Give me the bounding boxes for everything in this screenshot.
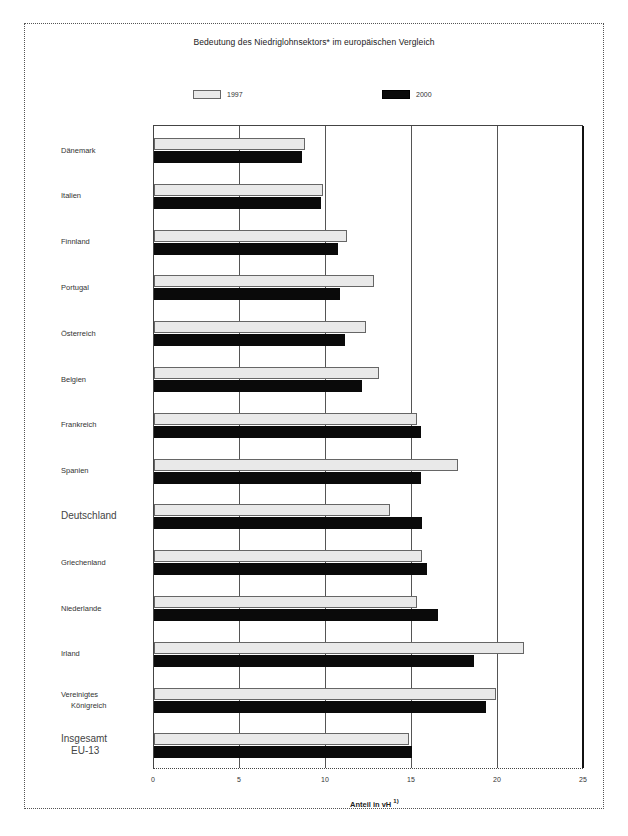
category-label-4: Österreich [61, 328, 96, 339]
category-label-5: Belgien [61, 374, 86, 385]
bar-2000-12 [154, 701, 486, 713]
bar-2000-10 [154, 609, 438, 621]
category-label-line: Portugal [61, 282, 89, 293]
x-tick-0: 0 [151, 776, 155, 783]
bar-2000-6 [154, 426, 421, 438]
gridline-25 [582, 126, 584, 768]
category-label-line: Österreich [61, 328, 96, 339]
bar-2000-8 [154, 517, 422, 529]
category-label-9: Griechenland [61, 557, 106, 568]
bar-2000-0 [154, 151, 302, 163]
x-tick-25: 25 [579, 776, 587, 783]
x-tick-10: 10 [321, 776, 329, 783]
bar-1997-6 [154, 413, 417, 425]
category-label-line: Deutschland [61, 510, 117, 522]
bar-2000-5 [154, 380, 362, 392]
bar-1997-10 [154, 596, 417, 608]
bar-2000-11 [154, 655, 474, 667]
bar-1997-0 [154, 138, 305, 150]
category-label-line: Dänemark [61, 145, 96, 156]
category-label-line: Griechenland [61, 557, 106, 568]
bar-1997-5 [154, 367, 379, 379]
bar-1997-4 [154, 321, 366, 333]
x-tick-20: 20 [493, 776, 501, 783]
bar-2000-4 [154, 334, 345, 346]
bar-2000-9 [154, 563, 427, 575]
bar-1997-7 [154, 459, 458, 471]
category-label-line: Italien [61, 190, 81, 201]
legend-item-1997: 1997 [193, 89, 243, 99]
bar-1997-9 [154, 550, 422, 562]
category-label-line: EU-13 [61, 745, 107, 757]
bar-1997-2 [154, 230, 347, 242]
legend-swatch-1997 [193, 90, 221, 99]
x-tick-15: 15 [407, 776, 415, 783]
gridline-10 [325, 126, 326, 768]
legend-swatch-2000 [382, 90, 410, 99]
legend-label-2000: 2000 [416, 91, 432, 98]
category-label-line: Insgesamt [61, 733, 107, 745]
category-label-1: Italien [61, 190, 81, 201]
category-label-line: Belgien [61, 374, 86, 385]
x-axis-footnote: 1) [393, 798, 398, 804]
category-label-11: Irland [61, 648, 80, 659]
legend-label-1997: 1997 [227, 91, 243, 98]
category-label-6: Frankreich [61, 419, 96, 430]
category-label-line: Irland [61, 648, 80, 659]
bar-1997-3 [154, 275, 374, 287]
chart-title: Bedeutung des Niedriglohnsektors* im eur… [0, 37, 628, 47]
gridline-20 [497, 126, 498, 768]
bar-2000-1 [154, 197, 321, 209]
category-label-8: Deutschland [61, 510, 117, 522]
category-label-10: Niederlande [61, 603, 101, 614]
category-label-2: Finnland [61, 236, 90, 247]
bar-2000-2 [154, 243, 338, 255]
category-label-3: Portugal [61, 282, 89, 293]
bar-1997-12 [154, 688, 496, 700]
plot-area [153, 125, 583, 769]
bar-1997-13 [154, 733, 409, 745]
category-label-line: Spanien [61, 465, 89, 476]
category-label-7: Spanien [61, 465, 89, 476]
category-label-line: Niederlande [61, 603, 101, 614]
bar-1997-1 [154, 184, 323, 196]
bar-2000-3 [154, 288, 340, 300]
gridline-15 [411, 126, 412, 768]
category-label-0: Dänemark [61, 145, 96, 156]
bar-2000-7 [154, 472, 421, 484]
category-label-13: InsgesamtEU-13 [61, 733, 107, 757]
bar-1997-8 [154, 504, 390, 516]
x-tick-5: 5 [237, 776, 241, 783]
bar-1997-11 [154, 642, 524, 654]
category-label-line: Königreich [61, 700, 106, 711]
category-label-line: Finnland [61, 236, 90, 247]
category-label-12: VereinigtesKönigreich [61, 689, 106, 711]
x-axis-label-text: Anteil in vH [350, 800, 391, 809]
legend-item-2000: 2000 [382, 89, 432, 99]
bar-2000-13 [154, 746, 412, 758]
category-label-line: Frankreich [61, 419, 96, 430]
category-label-line: Vereinigtes [61, 689, 106, 700]
x-axis-label: Anteil in vH 1) [350, 798, 399, 809]
gridline-5 [239, 126, 240, 768]
